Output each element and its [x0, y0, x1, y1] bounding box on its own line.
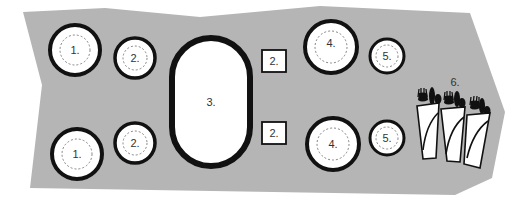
plate-label: 2. — [130, 52, 139, 64]
plate-label: 4. — [326, 37, 335, 49]
plate-label: 1. — [70, 44, 79, 56]
serving-platter: 3. — [172, 38, 250, 166]
charger-plate-bottom-right: 4. — [307, 118, 359, 170]
table-setting-diagram: 1. 2. 1. 2. 3. 2. 2. 4. — [0, 0, 524, 202]
plate-label: 2. — [130, 137, 139, 149]
cutlery-label: 6. — [450, 76, 459, 88]
dinner-plate-top-left: 1. — [50, 25, 100, 75]
side-plate-bottom-left: 2. — [115, 123, 155, 163]
platter-label: 3. — [206, 96, 215, 108]
plate-label: 5. — [382, 50, 391, 62]
dinner-plate-bottom-left: 1. — [52, 129, 102, 179]
plate-label: 5. — [382, 132, 391, 144]
square-label: 2. — [269, 55, 278, 67]
side-dish-square-bottom: 2. — [262, 122, 286, 144]
small-plate-bottom-right: 5. — [370, 121, 404, 155]
plate-label: 4. — [328, 138, 337, 150]
small-plate-top-right: 5. — [370, 39, 404, 73]
plate-label: 1. — [72, 148, 81, 160]
side-plate-top-left: 2. — [115, 38, 155, 78]
charger-plate-top-right: 4. — [305, 21, 357, 73]
side-dish-square-top: 2. — [262, 50, 286, 72]
square-label: 2. — [269, 127, 278, 139]
